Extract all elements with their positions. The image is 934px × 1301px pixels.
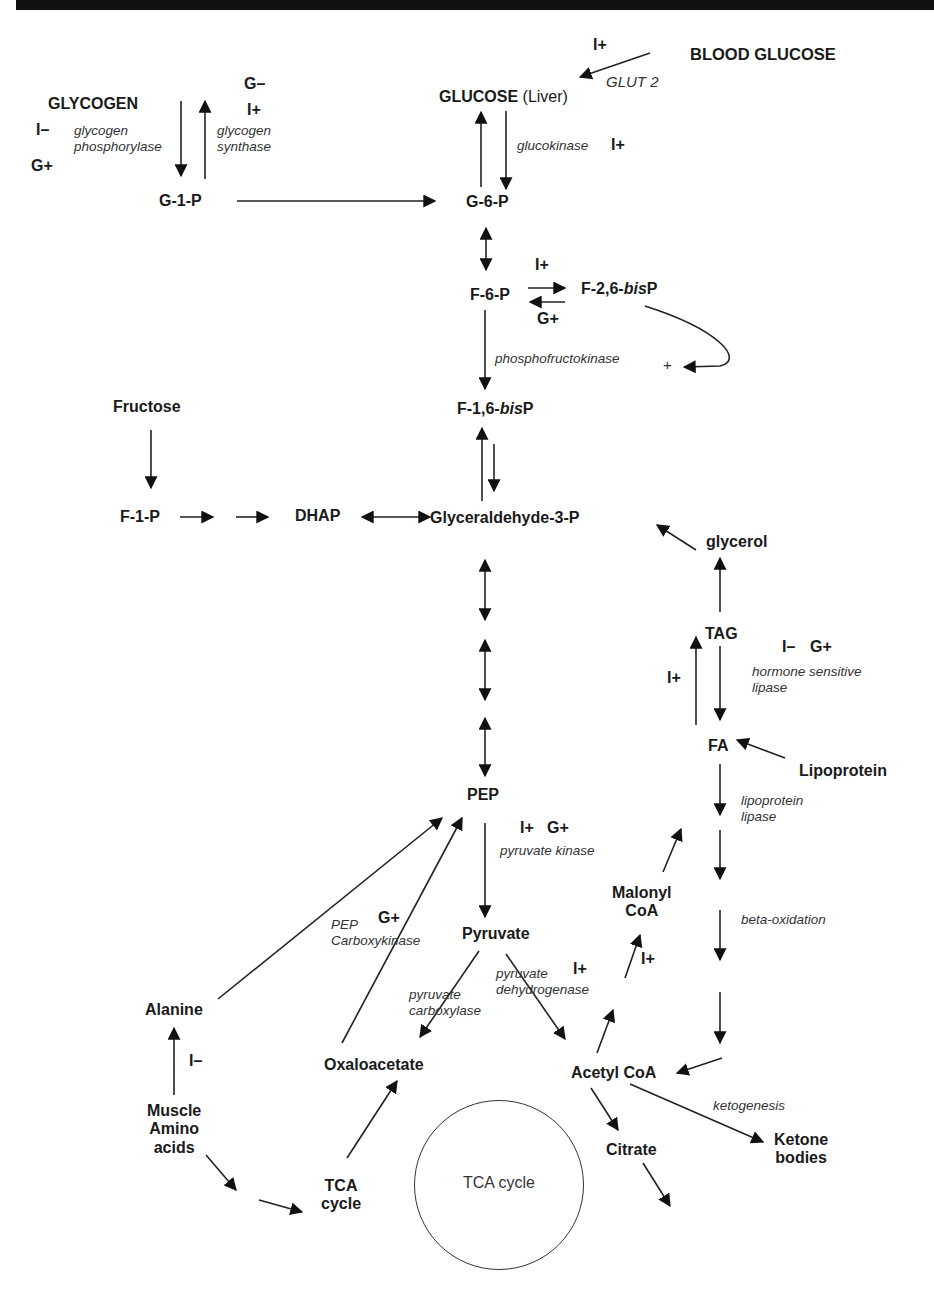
regulator-pyruvate-kinase-glucagon: G+ (547, 819, 569, 837)
regulator-hsl-glucagon: G+ (810, 638, 832, 656)
regulator-malonyl-insulin: I+ (641, 950, 655, 968)
metabolite-muscle-amino-acids: Muscle Amino acids (147, 1102, 201, 1157)
metabolite-lipoprotein: Lipoprotein (799, 762, 887, 780)
liver-qualifier: (Liver) (523, 88, 568, 105)
metabolite-glyceraldehyde-3-p: Glyceraldehyde-3-P (430, 509, 579, 527)
enzyme-line: synthase (217, 139, 271, 155)
enzyme-pep-carboxykinase: PEP Carboxykinase (331, 917, 420, 948)
regulator-hsl-insulin: I– (782, 638, 795, 656)
muscle-line-2: Amino (147, 1120, 201, 1138)
regulator-glycogen-synthase-glucagon: G– (244, 75, 265, 93)
regulator-glycogen-phosphorylase-glucagon: G+ (31, 157, 53, 175)
metabolite-f16bisp: F-1,6-bisP (457, 400, 533, 418)
regulator-pdh-insulin: I+ (573, 960, 587, 978)
ketone-line-1: Ketone (774, 1131, 828, 1149)
metabolite-dhap: DHAP (295, 507, 340, 525)
muscle-line-1: Muscle (147, 1102, 201, 1120)
malonyl-line-2: CoA (612, 902, 672, 920)
metabolite-f26bisp: F-2,6-bisP (581, 280, 657, 298)
enzyme-line: phosphorylase (74, 139, 162, 155)
enzyme-ketogenesis: ketogenesis (713, 1098, 785, 1114)
ketone-line-2: bodies (774, 1149, 828, 1167)
metabolite-f6p: F-6-P (470, 286, 510, 304)
enzyme-phosphofructokinase: phosphofructokinase (495, 351, 620, 367)
enzyme-glucokinase: glucokinase (517, 138, 588, 154)
metabolite-oxaloacetate: Oxaloacetate (324, 1056, 424, 1074)
f26bisp-bis: bis (624, 280, 647, 297)
metabolite-acetyl-coa: Acetyl CoA (571, 1064, 656, 1082)
regulator-glut2-insulin: I+ (593, 36, 607, 54)
enzyme-glut2: GLUT 2 (606, 73, 659, 90)
metabolite-tag: TAG (705, 625, 738, 643)
metabolite-alanine: Alanine (145, 1001, 203, 1019)
enzyme-pyruvate-kinase: pyruvate kinase (500, 843, 595, 859)
metabolite-g6p: G-6-P (466, 193, 509, 211)
regulator-tag-synthesis-insulin: I+ (667, 669, 681, 687)
metabolite-malonyl-coa: Malonyl CoA (612, 884, 672, 921)
f26bisp-suffix: P (647, 280, 658, 297)
metabolite-tca-cycle: TCA cycle (321, 1177, 361, 1214)
f26bisp-prefix: F-2,6- (581, 280, 624, 297)
enzyme-line: dehydrogenase (496, 982, 589, 998)
metabolite-pyruvate: Pyruvate (462, 925, 530, 943)
enzyme-glycogen-synthase: glycogen synthase (217, 123, 271, 154)
enzyme-pyruvate-carboxylase: pyruvate carboxylase (409, 987, 481, 1018)
enzyme-line: PEP (331, 917, 420, 933)
tca-cycle-circle: TCA cycle (414, 1100, 584, 1270)
muscle-line-3: acids (147, 1139, 201, 1157)
f16bisp-prefix: F-1,6- (457, 400, 500, 417)
tca-line-2: cycle (321, 1195, 361, 1213)
enzyme-line: glycogen (217, 123, 271, 139)
enzyme-line: lipase (741, 809, 803, 825)
enzyme-lipoprotein-lipase: lipoprotein lipase (741, 793, 803, 824)
regulator-glucokinase-insulin: I+ (611, 136, 625, 154)
f16bisp-bis: bis (500, 400, 523, 417)
metabolite-g1p: G-1-P (159, 192, 202, 210)
regulator-f26bp-glucagon: G+ (537, 310, 559, 328)
enzyme-line: pyruvate (409, 987, 481, 1003)
regulator-f26bp-insulin: I+ (535, 256, 549, 274)
enzyme-line: hormone sensitive (752, 664, 862, 680)
f16bisp-suffix: P (523, 400, 534, 417)
enzyme-glycogen-phosphorylase: glycogen phosphorylase (74, 123, 162, 154)
metabolite-fructose: Fructose (113, 398, 181, 416)
metabolite-glycerol: glycerol (706, 533, 767, 551)
enzyme-line: glycogen (74, 123, 162, 139)
metabolite-ketone-bodies: Ketone bodies (774, 1131, 828, 1168)
tca-cycle-label: TCA cycle (415, 1174, 583, 1192)
metabolite-glycogen: GLYCOGEN (48, 95, 138, 113)
regulator-pyruvate-kinase-insulin: I+ (520, 819, 534, 837)
glucose-label: GLUCOSE (439, 88, 518, 105)
metabolite-glucose-liver: GLUCOSE (Liver) (439, 88, 568, 106)
enzyme-beta-oxidation: beta-oxidation (741, 912, 826, 928)
malonyl-line-1: Malonyl (612, 884, 672, 902)
regulator-alanine-insulin: I– (189, 1052, 202, 1070)
metabolite-f1p: F-1-P (120, 508, 160, 526)
metabolite-pep: PEP (467, 786, 499, 804)
metabolite-blood-glucose: BLOOD GLUCOSE (690, 45, 836, 64)
enzyme-line: lipase (752, 680, 862, 696)
regulator-pfk-activation: + (663, 356, 672, 373)
enzyme-line: carboxylase (409, 1003, 481, 1019)
metabolite-citrate: Citrate (606, 1141, 657, 1159)
enzyme-hormone-sensitive-lipase: hormone sensitive lipase (752, 664, 862, 695)
metabolite-fa: FA (708, 737, 728, 755)
enzyme-line: lipoprotein (741, 793, 803, 809)
enzyme-line: Carboxykinase (331, 933, 420, 949)
regulator-glycogen-synthase-insulin: I+ (247, 101, 261, 119)
tca-line-1: TCA (321, 1177, 361, 1195)
regulator-glycogen-phosphorylase-insulin: I– (36, 121, 49, 139)
